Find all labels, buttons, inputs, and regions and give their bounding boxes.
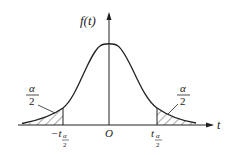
y-axis-arrow-icon <box>107 12 112 20</box>
left-area-label: α 2 <box>26 82 39 107</box>
svg-text:2: 2 <box>156 141 160 149</box>
svg-text:t: t <box>151 127 155 139</box>
left-cutoff-label: −t α 2 <box>51 127 69 149</box>
right-area-label: α 2 <box>177 82 190 107</box>
y-axis-label: f(t) <box>80 13 96 28</box>
svg-text:α: α <box>156 132 160 140</box>
t-distribution-diagram: f(t) t O α 2 α 2 −t α 2 t α 2 <box>0 0 230 155</box>
right-cutoff-label: t α 2 <box>151 127 162 149</box>
left-leader-line <box>38 105 55 113</box>
svg-text:α: α <box>63 132 67 140</box>
x-axis-label: t <box>217 118 221 132</box>
svg-text:2: 2 <box>63 141 67 149</box>
origin-label: O <box>105 127 113 139</box>
x-axis-arrow-icon <box>206 123 214 128</box>
svg-text:−t: −t <box>51 127 62 139</box>
right-leader-line <box>168 104 178 114</box>
svg-text:α: α <box>180 82 186 94</box>
svg-text:2: 2 <box>29 95 35 107</box>
svg-text:2: 2 <box>180 95 186 107</box>
svg-text:α: α <box>29 82 35 94</box>
y-axis <box>107 12 112 125</box>
